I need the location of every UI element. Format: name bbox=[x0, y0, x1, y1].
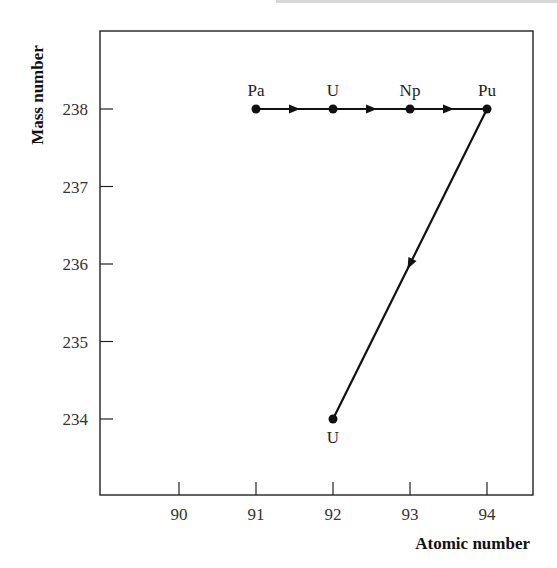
x-tick-label: 92 bbox=[325, 505, 342, 524]
data-point bbox=[329, 415, 338, 424]
x-tick-label: 90 bbox=[171, 505, 188, 524]
data-point bbox=[329, 105, 338, 114]
data-point bbox=[406, 105, 415, 114]
x-tick-label: 91 bbox=[248, 505, 265, 524]
data-point bbox=[483, 105, 492, 114]
y-tick-label: 238 bbox=[63, 100, 89, 119]
point-label: U bbox=[327, 428, 339, 447]
y-tick-label: 236 bbox=[63, 255, 89, 274]
point-label: Np bbox=[400, 81, 421, 100]
data-point bbox=[252, 105, 261, 114]
decay-path bbox=[256, 105, 487, 420]
y-tick-label: 235 bbox=[63, 333, 89, 352]
point-label: U bbox=[327, 81, 339, 100]
axis-ticks: 9091929394234235236237238 bbox=[63, 100, 497, 524]
plot-border bbox=[100, 31, 533, 495]
x-tick-label: 93 bbox=[402, 505, 419, 524]
chart: 9091929394234235236237238 PaUNpPuU Atomi… bbox=[0, 0, 557, 568]
point-label: Pa bbox=[248, 81, 265, 100]
arrowhead-icon bbox=[289, 105, 300, 114]
x-axis-title: Atomic number bbox=[415, 534, 530, 553]
arrowhead-icon bbox=[443, 105, 454, 114]
point-label: Pu bbox=[478, 81, 496, 100]
plot-frame bbox=[100, 31, 533, 495]
y-axis-title: Mass number bbox=[28, 45, 47, 145]
data-points: PaUNpPuU bbox=[248, 81, 497, 447]
y-tick-label: 237 bbox=[63, 178, 89, 197]
y-tick-label: 234 bbox=[63, 410, 89, 429]
x-tick-label: 94 bbox=[479, 505, 497, 524]
arrowhead-icon bbox=[366, 105, 377, 114]
